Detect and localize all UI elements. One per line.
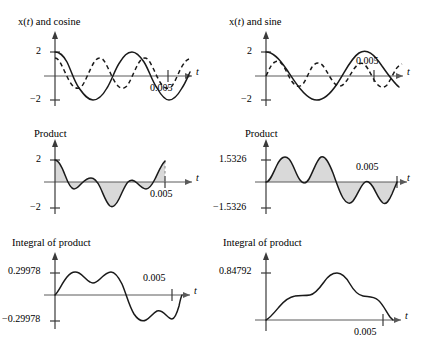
y-axis-arrow [52,31,58,39]
panel-title: Product [34,128,67,139]
x-tick-label: 0.005 [150,188,173,199]
y-axis-arrow [263,139,269,147]
y-tick-bottom-label: −0.29978 [2,313,40,324]
shaded-area [55,160,165,207]
y-tick-top-label: 2 [36,45,41,56]
curve-integral [266,273,393,320]
panel-integral-sine: Integral of product 0.84792 0.005 t [211,227,423,348]
panel-x-and-sine: x(t) and sine 2 −2 0.005 t [211,0,423,115]
panel-title: Integral of product [223,237,302,248]
y-tick-bottom-label: −2 [241,93,252,104]
y-axis-arrow [263,252,269,260]
panel-product-sine: Product 1.5326 −1.5326 0.005 t [211,115,423,227]
figure-page: { "figure": { "panels": [ { "id": "x-and… [0,0,423,348]
x-axis-arrow [185,179,192,185]
x-tick-label: 0.005 [143,272,166,283]
y-axis-arrow [263,31,269,39]
y-tick-top-label: 2 [247,45,252,56]
panel-integral-cosine: Integral of product 0.29978 −0.29978 0.0… [0,227,211,348]
y-tick-top-label: 2 [36,153,41,164]
panel-title: x(t) and sine [229,16,282,27]
panel-x-and-cosine: x(t) and cosine 2 −2 0.005 t [0,0,211,115]
x-axis-arrow [400,179,407,185]
y-tick-top-label: 0.84792 [219,265,252,276]
x-axis-arrow [183,292,190,298]
x-tick-label: 0.005 [354,326,377,337]
x-axis-arrow [396,73,403,79]
y-axis-arrow [52,252,58,260]
x-tick-label: 0.005 [150,82,173,93]
y-tick-top-label: 1.5326 [219,153,247,164]
y-tick-top-label: 0.29978 [8,265,41,276]
x-axis-arrow [394,317,401,323]
y-tick-bottom-label: −1.5326 [213,201,246,212]
y-tick-bottom-label: −2 [30,93,41,104]
panel-title: Integral of product [12,237,91,248]
y-axis-arrow [52,139,58,147]
panel-product-cosine: Product 2 −2 0.005 t [0,115,211,227]
x-axis-variable-label: t [405,310,408,321]
x-tick-label: 0.005 [356,161,379,172]
x-axis-variable-label: t [194,285,197,296]
x-axis-variable-label: t [407,172,410,183]
panel-title: Product [245,128,278,139]
panel-title: x(t) and cosine [18,16,80,27]
y-tick-bottom-label: −2 [30,201,41,212]
x-axis-variable-label: t [407,66,410,77]
x-tick-label: 0.005 [356,55,379,66]
x-axis-variable-label: t [196,66,199,77]
x-axis-variable-label: t [196,172,199,183]
